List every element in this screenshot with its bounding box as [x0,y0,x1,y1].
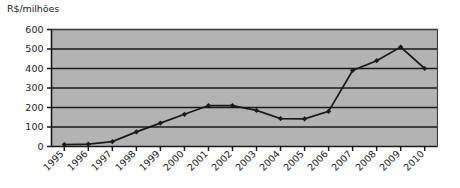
x-tick-label-1995: 1995 [41,148,66,173]
x-tick-label-2009: 2009 [377,148,402,173]
x-tick-label-2001: 2001 [185,148,210,173]
x-tick-label-2008: 2008 [353,148,378,173]
x-tick-label-1997: 1997 [89,148,114,173]
x-tick-label-2005: 2005 [281,148,306,173]
x-tick-label-2000: 2000 [161,148,186,173]
x-tick-label-2003: 2003 [233,148,258,173]
x-tick-label-1999: 1999 [137,148,162,173]
y-tick-label-600: 600 [25,24,43,35]
y-tick-label-300: 300 [25,82,43,93]
chart-container: R$/milhões 0100200300400500600 199519961… [0,0,460,188]
x-tick-label-1996: 1996 [65,148,90,173]
x-tick-label-2002: 2002 [209,148,234,173]
x-tick-labels-group: 1995199619971998199920002001200220032004… [41,148,426,173]
y-tick-label-0: 0 [37,141,43,152]
y-tick-label-400: 400 [25,63,43,74]
x-tick-label-2010: 2010 [401,148,426,173]
x-tick-label-2004: 2004 [257,148,282,173]
y-tick-label-200: 200 [25,102,43,113]
x-tick-label-1998: 1998 [113,148,138,173]
y-tick-labels-group: 0100200300400500600 [25,24,43,152]
plot-area-wrapper: 0100200300400500600 19951996199719981999… [0,0,460,188]
line-chart-svg: 0100200300400500600 19951996199719981999… [0,0,460,188]
x-tick-label-2006: 2006 [305,148,330,173]
x-tick-label-2007: 2007 [329,148,354,173]
y-tick-label-100: 100 [25,121,43,132]
y-tick-label-500: 500 [25,43,43,54]
